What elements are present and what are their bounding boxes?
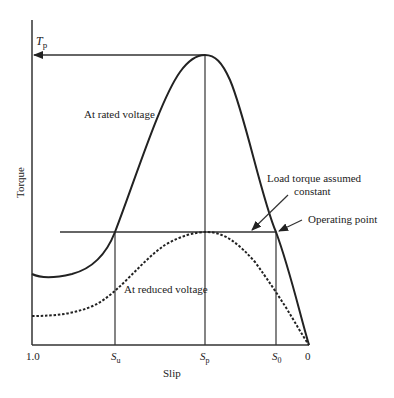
load-torque-label-1: Load torque assumed [267,172,362,184]
x-tick-0: 0 [305,350,311,362]
tp-label: Tp [36,34,48,50]
x-tick-1: 1.0 [26,350,40,362]
diagram-canvas: Tp At rated voltage At reduced voltage L… [0,0,394,398]
rated-voltage-curve [32,55,309,345]
x-tick-su: Su [111,350,121,365]
reduced-voltage-label: At reduced voltage [124,283,208,295]
y-axis-label: Torque [14,167,26,198]
operating-point-label: Operating point [308,213,377,225]
load-torque-label-2: constant [294,185,331,197]
rated-voltage-label: At rated voltage [84,108,155,120]
torque-slip-diagram: Tp At rated voltage At reduced voltage L… [0,0,394,398]
x-tick-s0: S0 [272,350,282,365]
load-torque-arrow [252,195,288,230]
x-axis-label: Slip [163,367,181,379]
x-tick-sp: Sp [200,350,210,365]
operating-point-arrow [279,220,302,231]
